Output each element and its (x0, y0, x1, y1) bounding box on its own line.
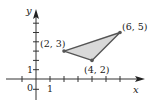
y-tick-label-1: 1 (27, 64, 33, 75)
point-label-2-3: (2, 3) (40, 38, 66, 49)
point-label-6-5: (6, 5) (122, 21, 148, 32)
coordinate-plot: (2, 3) (4, 2) (6, 5) 1 0 1 x y (0, 0, 157, 105)
vertex-point (90, 59, 94, 63)
y-axis-label: y (25, 5, 32, 16)
point-label-4-2: (4, 2) (84, 64, 110, 75)
x-tick-label-1: 1 (47, 83, 53, 94)
x-axis-label: x (133, 84, 139, 95)
triangle-region (64, 33, 120, 61)
origin-label: 0 (27, 82, 33, 93)
vertex-point (62, 49, 66, 53)
